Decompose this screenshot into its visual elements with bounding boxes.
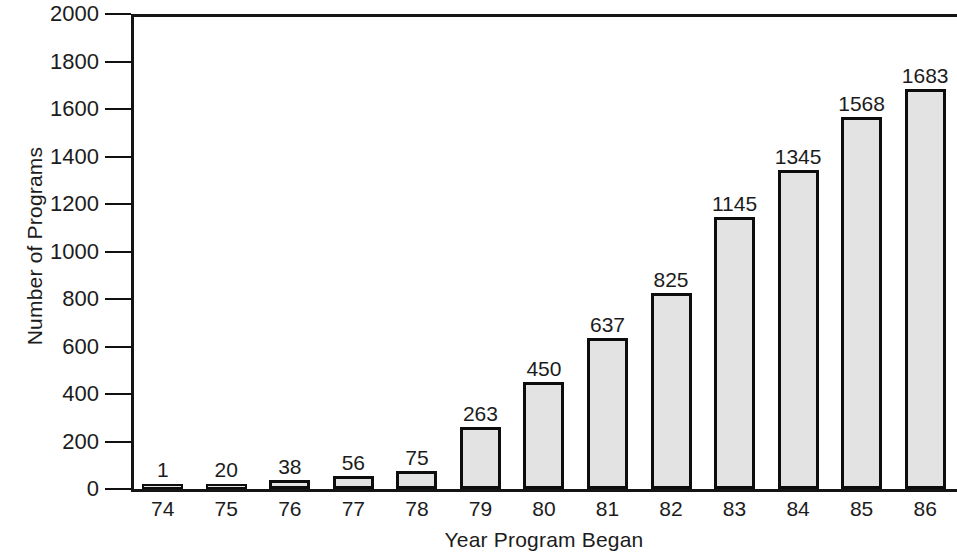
bar-value-label: 450 <box>526 357 561 381</box>
bar: 75 <box>396 471 437 489</box>
bar-series: 1203856752634506378251145134515681683 <box>131 14 957 489</box>
x-axis-tick-label: 80 <box>512 497 576 521</box>
x-axis-tick-label: 75 <box>195 497 259 521</box>
x-axis-title: Year Program Began <box>131 528 957 552</box>
bar-value-label: 1568 <box>838 92 885 116</box>
y-axis-tick-label: 600 <box>62 334 99 360</box>
bar: 20 <box>206 484 247 489</box>
y-axis-tick-label: 200 <box>62 429 99 455</box>
bar: 637 <box>587 338 628 489</box>
y-axis-tick-mark <box>105 251 131 253</box>
y-axis-tick-label: 1000 <box>50 239 99 265</box>
bar-slot: 1568 <box>830 14 894 489</box>
bar-slot: 1345 <box>766 14 830 489</box>
bar-value-label: 263 <box>463 402 498 426</box>
bar-slot: 1 <box>131 14 195 489</box>
bar-slot: 56 <box>322 14 386 489</box>
y-axis-tick-mark <box>105 61 131 63</box>
y-axis-tick-label: 1800 <box>50 49 99 75</box>
bar-value-label: 20 <box>215 458 238 482</box>
bar: 1683 <box>905 89 946 489</box>
bar: 1 <box>142 484 183 489</box>
bar: 263 <box>460 427 501 489</box>
bar: 38 <box>269 480 310 489</box>
bar-slot: 450 <box>512 14 576 489</box>
y-axis-tick-mark <box>105 13 131 15</box>
bar-slot: 825 <box>639 14 703 489</box>
x-axis-tick-group: 74757677787980818283848586 <box>131 497 957 521</box>
y-axis-title: Number of Programs <box>23 116 47 376</box>
x-axis-tick-label: 85 <box>830 497 894 521</box>
bar-value-label: 1683 <box>902 64 949 88</box>
y-axis-tick-label: 1600 <box>50 96 99 122</box>
x-axis-tick-label: 86 <box>893 497 957 521</box>
bar-slot: 38 <box>258 14 322 489</box>
x-axis-tick-label: 76 <box>258 497 322 521</box>
bar-slot: 1683 <box>893 14 957 489</box>
x-axis-tick-label: 77 <box>322 497 386 521</box>
y-axis-tick-mark <box>105 298 131 300</box>
bar-slot: 1145 <box>703 14 767 489</box>
bar: 1145 <box>714 217 755 489</box>
bar-value-label: 1145 <box>712 192 757 216</box>
y-axis-tick-label: 0 <box>87 476 99 502</box>
bar-value-label: 1 <box>157 458 169 482</box>
bar: 1345 <box>778 170 819 489</box>
y-axis-tick-label: 1200 <box>50 191 99 217</box>
bar-value-label: 56 <box>342 451 365 475</box>
bar: 450 <box>523 382 564 489</box>
x-axis-tick-label: 84 <box>766 497 830 521</box>
bar-chart: Number of Programs 020040060080010001200… <box>0 0 957 554</box>
y-axis-tick-label: 1400 <box>50 144 99 170</box>
bar-value-label: 637 <box>590 313 625 337</box>
x-axis-tick-label: 74 <box>131 497 195 521</box>
bar-value-label: 38 <box>278 455 301 479</box>
plot-area: 1203856752634506378251145134515681683 <box>131 14 957 489</box>
y-axis-tick-label: 800 <box>62 286 99 312</box>
bar: 56 <box>333 476 374 489</box>
bar-slot: 263 <box>449 14 513 489</box>
x-axis-tick-label: 81 <box>576 497 640 521</box>
bar: 825 <box>651 293 692 489</box>
y-axis-tick-mark <box>105 488 131 490</box>
bar-value-label: 1345 <box>775 145 822 169</box>
x-axis-tick-label: 79 <box>449 497 513 521</box>
x-axis-line <box>131 489 957 492</box>
y-axis-tick-mark <box>105 393 131 395</box>
x-axis-tick-label: 78 <box>385 497 449 521</box>
bar-slot: 637 <box>576 14 640 489</box>
x-axis-tick-label: 83 <box>703 497 767 521</box>
y-axis-tick-mark <box>105 346 131 348</box>
y-axis-tick-mark <box>105 108 131 110</box>
y-axis-tick-label: 2000 <box>50 1 99 27</box>
bar-slot: 20 <box>195 14 259 489</box>
bar-value-label: 825 <box>653 268 688 292</box>
x-axis-tick-label: 82 <box>639 497 703 521</box>
bar-value-label: 75 <box>405 446 428 470</box>
y-axis-tick-label: 400 <box>62 381 99 407</box>
bar: 1568 <box>841 117 882 489</box>
y-axis-tick-mark <box>105 156 131 158</box>
bar-slot: 75 <box>385 14 449 489</box>
y-axis-tick-mark <box>105 441 131 443</box>
y-axis-tick-mark <box>105 203 131 205</box>
